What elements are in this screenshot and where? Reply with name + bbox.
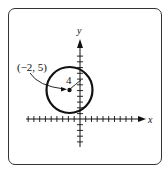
coordinate-plane: x y 4 (−2, 5) [0,0,166,170]
y-axis [77,39,83,147]
center-leader-arrow-icon [61,87,67,91]
x-axis [26,116,146,122]
x-axis-label: x [147,114,153,125]
y-axis-arrow-icon [77,39,83,48]
radius-label: 4 [66,74,72,86]
center-label: (−2, 5) [17,61,47,74]
x-axis-arrow-icon [138,116,146,122]
y-axis-label: y [76,25,82,36]
